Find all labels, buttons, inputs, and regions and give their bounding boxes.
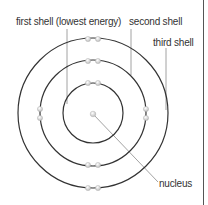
electron-icon — [95, 80, 100, 85]
nucleus-leader — [93, 114, 158, 182]
electron-icon — [37, 106, 42, 111]
first-shell-label: first shell (lowest energy) — [16, 16, 121, 28]
electron-icon — [95, 185, 100, 190]
electron-icon — [143, 115, 148, 120]
electron-icon — [95, 36, 100, 41]
electron-icon — [85, 36, 90, 41]
nucleus-label: nucleus — [159, 178, 192, 190]
electron-icon — [85, 185, 90, 190]
electron-icon — [95, 58, 100, 63]
third-shell-label: third shell — [153, 37, 194, 49]
atom-diagram — [0, 0, 208, 205]
electron-icon — [95, 162, 100, 167]
electron-icon — [85, 162, 90, 167]
electron-icon — [85, 58, 90, 63]
second-shell-label: second shell — [129, 16, 182, 28]
electron-icon — [143, 106, 148, 111]
electron-icon — [37, 115, 42, 120]
electron-icon — [85, 80, 90, 85]
nucleus-icon — [90, 111, 96, 117]
